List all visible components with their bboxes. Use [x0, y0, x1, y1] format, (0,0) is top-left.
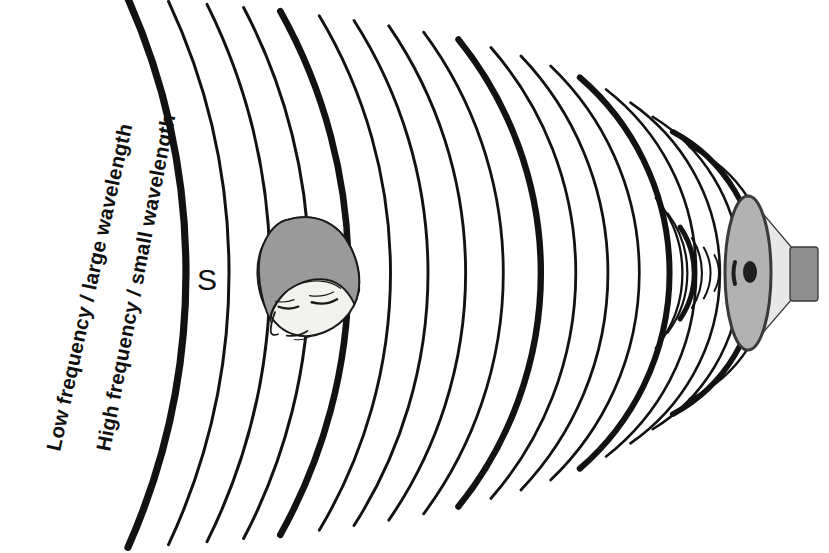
diagram-canvas: Low frequency / large wavelength High fr… — [0, 0, 829, 553]
sound-wave-diagram: Low frequency / large wavelength High fr… — [0, 0, 829, 553]
wavefront-arc-thin — [424, 32, 504, 514]
speaker-magnet — [790, 247, 818, 301]
speaker-dust-cap-icon — [743, 261, 757, 283]
source-letter-label: S — [197, 263, 217, 296]
wavefront-arc-thick — [580, 77, 670, 468]
wavefront-arc-thin — [704, 248, 711, 299]
speaker-surround-slit — [734, 262, 736, 284]
wavefront-arc-group — [128, 0, 770, 547]
human-head-listener — [239, 203, 374, 348]
wavelength-labels: Low frequency / large wavelength High fr… — [41, 112, 179, 453]
loudspeaker-horn — [725, 196, 818, 350]
wavefront-arc-thick — [458, 39, 540, 506]
